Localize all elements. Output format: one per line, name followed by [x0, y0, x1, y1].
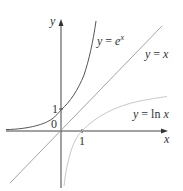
- y-tick-label: 1: [52, 102, 58, 116]
- label-exp: y = ex: [96, 33, 124, 48]
- function-graph: y x 0 1 1 y = ex y = x y = ln x: [0, 0, 183, 191]
- label-log: y = ln x: [132, 107, 169, 121]
- y-axis-label: y: [49, 14, 56, 28]
- curve-exp: [6, 21, 96, 130]
- origin-label: 0: [51, 117, 57, 131]
- x-axis-label: x: [163, 132, 170, 146]
- curve-identity: [10, 26, 162, 183]
- y-axis-arrow-icon: [59, 19, 64, 26]
- x-tick-label: 1: [79, 134, 85, 148]
- label-identity: y = x: [144, 47, 169, 61]
